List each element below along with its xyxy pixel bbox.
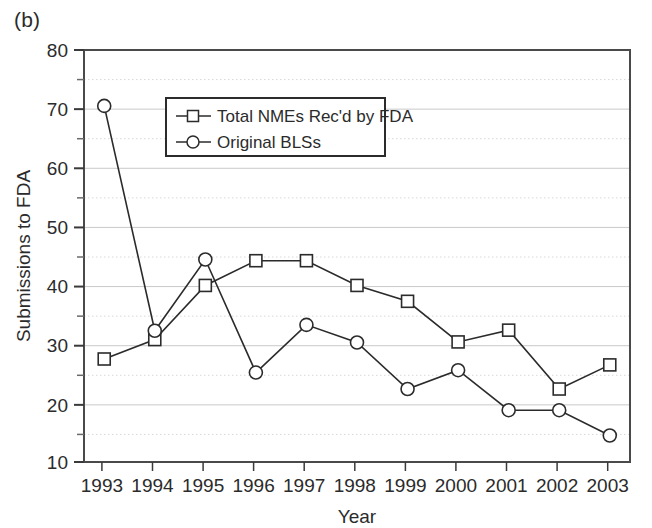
circle-marker-icon[interactable] [452, 364, 465, 377]
circle-marker-icon[interactable] [300, 318, 313, 331]
circle-marker-icon[interactable] [553, 404, 566, 417]
circle-marker-icon[interactable] [401, 383, 414, 396]
y-axis-tick-labels: 80 70 60 50 40 30 20 10 [47, 40, 68, 473]
circle-marker-icon[interactable] [502, 404, 515, 417]
square-marker-icon[interactable] [553, 383, 565, 395]
circle-marker-icon[interactable] [98, 99, 111, 112]
y-axis-major-ticks [74, 50, 84, 462]
square-marker-icon[interactable] [351, 279, 363, 291]
x-tick-label: 1996 [232, 475, 274, 496]
y-tick-label: 20 [47, 395, 68, 416]
y-tick-label: 10 [47, 452, 68, 473]
x-tick-label: 2000 [435, 475, 477, 496]
x-axis-title: Year [338, 506, 377, 527]
x-tick-label: 2001 [485, 475, 527, 496]
y-axis-title: Submissions to FDA [13, 170, 34, 342]
square-marker-icon[interactable] [199, 279, 211, 291]
circle-marker-icon[interactable] [603, 429, 616, 442]
x-tick-label: 1994 [131, 475, 174, 496]
figure-panel-b: (b) [0, 0, 652, 528]
circle-marker-icon[interactable] [199, 253, 212, 266]
square-marker-icon[interactable] [503, 324, 515, 336]
y-tick-label: 50 [47, 217, 68, 238]
square-marker-icon[interactable] [250, 255, 262, 267]
x-axis-tick-labels: 1993 1994 1995 1996 1997 1998 1999 2000 … [81, 475, 629, 496]
y-tick-label: 60 [47, 158, 68, 179]
x-tick-label: 1999 [384, 475, 426, 496]
y-axis-minor-ticks [77, 80, 84, 435]
y-tick-label: 80 [47, 40, 68, 61]
x-axis-ticks [102, 462, 608, 471]
x-tick-label: 1995 [182, 475, 224, 496]
x-tick-label: 2003 [587, 475, 629, 496]
legend: Total NMEs Rec'd by FDA Original BLSs [166, 98, 414, 156]
y-tick-label: 70 [47, 99, 68, 120]
y-tick-label: 30 [47, 335, 68, 356]
y-tick-label: 40 [47, 276, 68, 297]
circle-marker-icon[interactable] [249, 366, 262, 379]
circle-marker-icon[interactable] [148, 324, 161, 337]
x-tick-label: 1993 [81, 475, 123, 496]
line-chart: 80 70 60 50 40 30 20 10 Submissions to F… [0, 0, 652, 528]
square-marker-icon[interactable] [452, 336, 464, 348]
x-tick-label: 2002 [536, 475, 578, 496]
circle-marker-icon [187, 136, 199, 148]
square-marker-icon[interactable] [604, 359, 616, 371]
square-marker-icon[interactable] [300, 255, 312, 267]
square-marker-icon [188, 111, 199, 122]
legend-label: Total NMEs Rec'd by FDA [217, 107, 414, 126]
square-marker-icon[interactable] [402, 295, 414, 307]
square-marker-icon[interactable] [98, 353, 110, 365]
legend-label: Original BLSs [217, 133, 321, 152]
x-tick-label: 1998 [334, 475, 376, 496]
circle-marker-icon[interactable] [351, 336, 364, 349]
x-tick-label: 1997 [283, 475, 325, 496]
